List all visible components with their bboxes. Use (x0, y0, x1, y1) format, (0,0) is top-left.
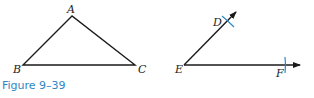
point-label-f: F (275, 67, 284, 80)
vertex-label-e: E (174, 63, 183, 76)
vertex-label-c: C (138, 63, 147, 76)
point-label-d: D (212, 16, 222, 29)
angle-def: D E F (174, 12, 300, 80)
arc-mark-f (285, 57, 286, 73)
ray-ed (184, 12, 236, 65)
triangle-abc: A B C (12, 3, 147, 76)
vertex-label-b: B (12, 63, 21, 76)
figure-caption: Figure 9–39 (2, 79, 66, 92)
triangle-outline (23, 16, 135, 65)
vertex-label-a: A (66, 3, 75, 16)
